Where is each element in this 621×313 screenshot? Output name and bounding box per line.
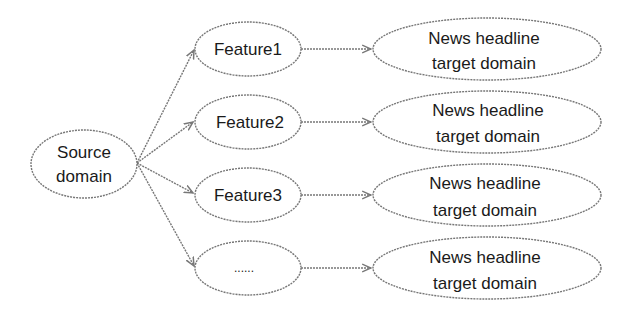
source-edges [137,50,194,266]
feature-node-2: Feature2 [195,95,301,149]
edge-source-feature1 [137,50,194,163]
feature-label: Feature2 [216,113,284,132]
source-node: Source domain [31,130,137,198]
target-label-line2: target domain [432,54,536,73]
feature-edges [301,49,371,268]
target-node-3: News headline target domain [373,164,601,226]
target-label-line1: News headline [429,248,541,267]
source-label-line2: domain [56,167,112,186]
feature-node-1: Feature1 [195,22,301,76]
feature-label: Feature1 [214,40,282,59]
edge-source-feature3 [137,163,193,193]
edge-source-feature4 [137,163,194,266]
target-label-line1: News headline [432,101,544,120]
target-label-line2: target domain [433,274,537,293]
target-label-line2: target domain [436,127,540,146]
feature-label: Feature3 [214,186,282,205]
feature-node-3: Feature3 [195,168,301,222]
target-node-2: News headline target domain [373,91,601,153]
target-node-4: News headline target domain [373,237,601,299]
edge-source-feature2 [137,122,193,163]
feature-node-4: ...... [195,241,301,295]
target-label-line2: target domain [433,201,537,220]
feature-label-ellipsis: ...... [234,261,254,275]
target-node-1: News headline target domain [373,18,601,80]
diagram-canvas: Source domain Feature1 Feature2 Feature3… [0,0,621,313]
source-label-line1: Source [57,143,111,162]
target-label-line1: News headline [428,29,540,48]
target-label-line1: News headline [429,174,541,193]
